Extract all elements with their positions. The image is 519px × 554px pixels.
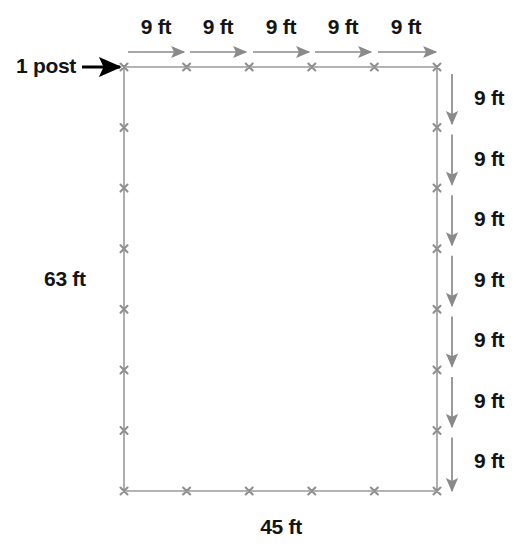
right-segment-label-2: 9 ft [474, 148, 504, 169]
post-markers [121, 64, 441, 495]
diagram-canvas: 1 post 9 ft 9 ft 9 ft 9 ft 9 ft 9 ft 9 f… [0, 0, 519, 554]
right-segment-label-6: 9 ft [474, 390, 504, 411]
top-segment-label-4: 9 ft [328, 16, 358, 37]
right-segment-label-7: 9 ft [474, 450, 504, 471]
top-segment-label-5: 9 ft [391, 16, 421, 37]
right-segment-label-5: 9 ft [474, 329, 504, 350]
right-segment-label-3: 9 ft [474, 208, 504, 229]
right-segment-label-4: 9 ft [474, 269, 504, 290]
right-segment-label-1: 9 ft [474, 87, 504, 108]
fence-perimeter [124, 67, 437, 491]
post-callout-label: 1 post [16, 55, 76, 76]
top-segment-label-1: 9 ft [141, 16, 171, 37]
bottom-side-length-label: 45 ft [260, 516, 302, 537]
left-side-length-label: 63 ft [44, 268, 86, 289]
top-segment-label-3: 9 ft [266, 16, 296, 37]
top-segment-label-2: 9 ft [203, 16, 233, 37]
